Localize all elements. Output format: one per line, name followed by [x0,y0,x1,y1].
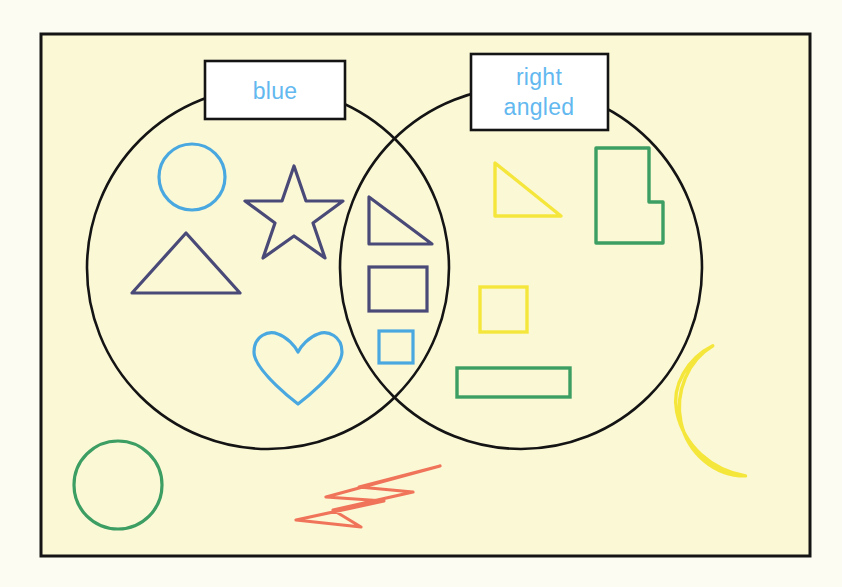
label-text-blue: blue [253,78,298,104]
label-text-right-angled-line2: angled [504,94,575,120]
label-text-right-angled-line1: right [516,64,563,90]
worksheet-page: blue right angled [0,0,842,587]
venn-diagram-canvas: blue right angled [0,0,842,587]
